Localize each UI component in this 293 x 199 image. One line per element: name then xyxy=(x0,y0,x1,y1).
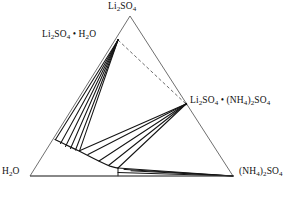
phase-label-lithium-sulfate-monohydrate: Li2SO4 • H2O xyxy=(42,30,96,40)
tie-lines-double-salt xyxy=(80,104,187,168)
vertex-label-li2so4: Li2SO4 xyxy=(108,2,136,12)
tie-lines-hydrate xyxy=(56,40,119,151)
phase-label-double-salt: Li2SO4 • (NH4)2SO4 xyxy=(190,96,270,106)
vertex-label-water: H2O xyxy=(2,167,20,177)
vertex-label-ammonium-sulfate: (NH4)2SO4 xyxy=(239,167,283,177)
cropped-caption-fragment xyxy=(2,190,122,198)
ternary-phase-diagram: Li2SO4 Li2SO4 • H2O Li2SO4 • (NH4)2SO4 H… xyxy=(0,0,293,199)
tie-lines-ammonium-sulfate xyxy=(118,168,233,176)
